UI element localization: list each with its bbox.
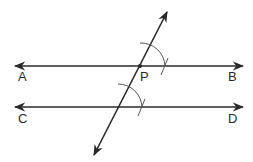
arc-at-cd-intersection bbox=[118, 84, 142, 107]
label-p: P bbox=[140, 69, 149, 84]
label-d: D bbox=[228, 111, 237, 126]
arc-at-p bbox=[140, 43, 165, 66]
transversal-line bbox=[94, 12, 167, 155]
label-b: B bbox=[228, 69, 237, 84]
diagram-canvas: A P B C D bbox=[0, 0, 253, 162]
label-c: C bbox=[18, 111, 27, 126]
label-a: A bbox=[18, 69, 27, 84]
point-p-dot bbox=[138, 64, 142, 68]
